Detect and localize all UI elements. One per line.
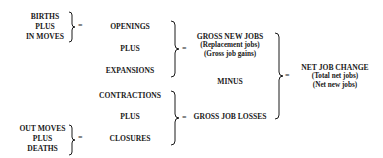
label-contractions: CONTRACTIONS [90, 92, 170, 100]
equals-sign: = [78, 134, 83, 142]
brace-deaths-group [68, 124, 76, 156]
label-expansions: EXPANSIONS [95, 67, 165, 75]
brace-births-group [68, 11, 76, 43]
equals-sign: = [182, 45, 187, 53]
label-openings: OPENINGS [95, 23, 165, 31]
label-plus: PLUS [20, 135, 65, 143]
label-plus: PLUS [95, 45, 165, 53]
label-plus: PLUS [25, 23, 65, 31]
label-gross-job-gains: (Gross job gains) [190, 51, 270, 58]
brace-losses-group [170, 90, 180, 146]
label-total-net-jobs: (Total net jobs) [292, 73, 378, 80]
label-gross-new-jobs: GROSS NEW JOBS [190, 33, 270, 41]
label-births: BIRTHS [25, 13, 65, 21]
label-gross-job-losses: GROSS JOB LOSSES [185, 113, 275, 121]
brace-net-group [274, 32, 284, 120]
label-deaths: DEATHS [20, 145, 65, 153]
label-net-job-change: NET JOB CHANGE [292, 64, 378, 72]
label-replacement-jobs: (Replacement jobs) [190, 42, 270, 49]
label-closures: CLOSURES [95, 135, 165, 143]
equals-sign: = [285, 72, 290, 80]
label-net-new-jobs: (Net new jobs) [292, 82, 378, 89]
equals-sign: = [78, 22, 83, 30]
label-out-moves: OUT MOVES [15, 125, 70, 133]
label-plus: PLUS [95, 113, 165, 121]
label-minus: MINUS [190, 78, 270, 86]
brace-gains-group [170, 20, 180, 78]
label-in-moves: IN MOVES [20, 33, 70, 41]
